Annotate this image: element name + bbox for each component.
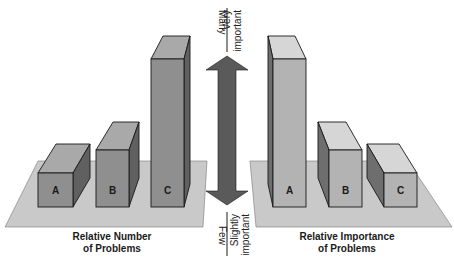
left-bar-c-label: C: [164, 185, 171, 196]
abc-analysis-diagram: A B C Relative Number of Problems Many V…: [0, 0, 454, 264]
left-caption-line1: Relative Number: [73, 231, 152, 242]
left-caption-line2: of Problems: [83, 243, 141, 254]
scale-few: Few: [217, 226, 228, 246]
right-panel-importance-of-problems: A B C Relative Importance of Problems: [250, 36, 452, 254]
right-caption-line1: Relative Importance: [299, 231, 394, 242]
center-scale: Many Very important Few Slightly importa…: [206, 8, 251, 256]
scale-important-bottom: important: [240, 214, 251, 256]
right-bar-a-label: A: [286, 185, 293, 196]
left-bar-a-label: A: [52, 185, 59, 196]
scale-important-top: important: [232, 10, 243, 52]
right-bar-c-label: C: [397, 185, 404, 196]
scale-very: Very: [221, 10, 232, 30]
scale-slightly: Slightly: [229, 214, 240, 246]
left-bar-b: B: [96, 122, 139, 207]
right-caption-line2: of Problems: [318, 243, 376, 254]
double-arrow-icon: [206, 56, 248, 205]
left-bar-c: C: [151, 36, 190, 207]
right-bar-b-label: B: [342, 185, 349, 196]
right-bar-b: B: [318, 122, 362, 207]
left-panel-number-of-problems: A B C Relative Number of Problems: [5, 36, 207, 254]
right-bar-a: A: [268, 36, 306, 207]
left-bar-b-label: B: [109, 185, 116, 196]
